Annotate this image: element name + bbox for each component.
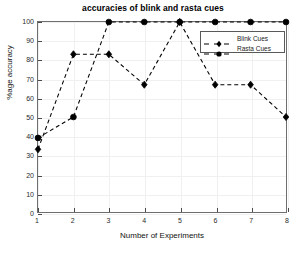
y-tick-label: 70 [2,75,34,82]
y-tick-label: 60 [2,94,34,101]
legend-item[interactable]: Rasta Cues [203,45,284,55]
legend[interactable]: Blink CuesRasta Cues [200,31,285,53]
x-tick-label: 4 [132,217,156,224]
data-point-marker [212,19,218,25]
data-point-marker [106,51,112,58]
legend-item-label: Blink Cues [237,35,268,42]
y-tick-label: 50 [2,114,34,121]
data-point-marker [283,19,289,25]
y-tick-label: 0 [2,210,34,217]
diamond-marker-icon [203,35,235,45]
x-tick-label: 5 [168,217,192,224]
x-tick-mark [288,208,289,212]
y-tick-label: 90 [2,37,34,44]
data-point-marker [141,19,147,25]
data-point-marker [35,135,41,141]
chart-figure: accuracies of blink and rasta cues %age … [0,0,306,255]
x-tick-label: 7 [239,217,263,224]
x-tick-label: 2 [61,217,85,224]
y-tick-label: 100 [2,18,34,25]
x-tick-label: 8 [275,217,299,224]
x-tick-label: 3 [96,217,120,224]
x-tick-label: 6 [204,217,228,224]
y-tick-label: 30 [2,152,34,159]
data-point-marker [106,19,112,25]
data-point-marker [177,19,183,25]
data-point-marker [71,51,77,58]
x-axis-label: Number of Experiments [37,231,287,240]
y-tick-label: 20 [2,171,34,178]
page-title: accuracies of blink and rasta cues [0,3,306,13]
y-tick-label: 40 [2,133,34,140]
y-tick-label: 80 [2,56,34,63]
legend-item[interactable]: Blink Cues [203,35,284,45]
data-point-marker [248,19,254,25]
data-point-marker [212,81,218,88]
gridline-horizontal [38,214,286,215]
y-tick-mark [38,214,42,215]
x-tick-label: 1 [25,217,49,224]
data-point-marker [142,81,148,88]
circle-marker-icon [203,45,235,55]
data-point-marker [71,114,77,120]
data-point-marker [35,146,41,153]
y-tick-label: 10 [2,190,34,197]
data-point-marker [248,81,254,88]
legend-item-label: Rasta Cues [237,45,271,52]
